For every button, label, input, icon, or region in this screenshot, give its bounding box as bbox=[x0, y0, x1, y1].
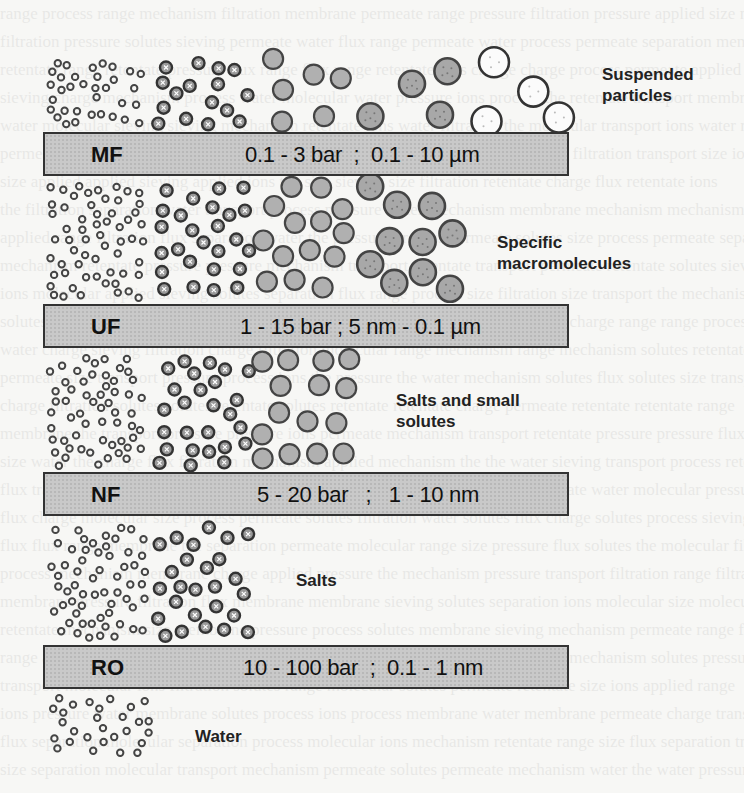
uf-bar: UF 1 - 15 bar ; 5 nm - 0.1 µm bbox=[43, 304, 569, 348]
label-line: Salts and small bbox=[396, 390, 520, 411]
uf-code: UF bbox=[91, 314, 120, 340]
label-line: Salts bbox=[296, 570, 337, 591]
label-line: particles bbox=[602, 85, 694, 106]
label-line: Specific bbox=[497, 232, 631, 253]
label-line: Water bbox=[195, 726, 242, 747]
label-water: Water bbox=[195, 726, 242, 747]
nf-bar: NF 5 - 20 bar ; 1 - 10 nm bbox=[43, 472, 569, 516]
label-line: Suspended bbox=[602, 64, 694, 85]
label-macromolecules: Specific macromolecules bbox=[497, 232, 631, 274]
mf-code: MF bbox=[91, 142, 123, 168]
nf-range: 5 - 20 bar ; 1 - 10 nm bbox=[257, 482, 479, 508]
ro-code: RO bbox=[91, 655, 124, 681]
mf-range: 0.1 - 3 bar ; 0.1 - 10 µm bbox=[245, 142, 479, 168]
mf-bar: MF 0.1 - 3 bar ; 0.1 - 10 µm bbox=[43, 132, 569, 176]
label-salts-small-solutes: Salts and small solutes bbox=[396, 390, 520, 432]
uf-range: 1 - 15 bar ; 5 nm - 0.1 µm bbox=[240, 314, 481, 340]
label-salts: Salts bbox=[296, 570, 337, 591]
nf-code: NF bbox=[91, 482, 120, 508]
label-line: solutes bbox=[396, 411, 520, 432]
label-line: macromolecules bbox=[497, 253, 631, 274]
ro-bar: RO 10 - 100 bar ; 0.1 - 1 nm bbox=[43, 645, 569, 689]
ro-range: 10 - 100 bar ; 0.1 - 1 nm bbox=[243, 655, 483, 681]
label-suspended-particles: Suspended particles bbox=[602, 64, 694, 106]
